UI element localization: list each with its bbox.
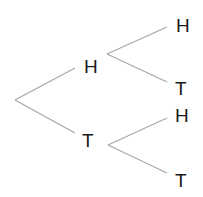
edge-root-to-h <box>15 68 75 100</box>
node-l2-ht: T <box>175 78 187 99</box>
edge-h-to-h <box>107 27 167 54</box>
edge-t-to-t <box>108 145 167 173</box>
node-l2-hh: H <box>176 15 190 36</box>
node-l1-t: T <box>82 130 94 151</box>
node-l2-th: H <box>175 105 189 126</box>
node-l1-h: H <box>84 56 98 77</box>
edge-h-to-t <box>107 54 167 82</box>
edge-root-to-t <box>15 100 75 133</box>
node-l2-tt: T <box>175 170 187 191</box>
edge-t-to-h <box>108 118 167 145</box>
probability-tree-diagram: H T H T H T <box>0 0 203 197</box>
